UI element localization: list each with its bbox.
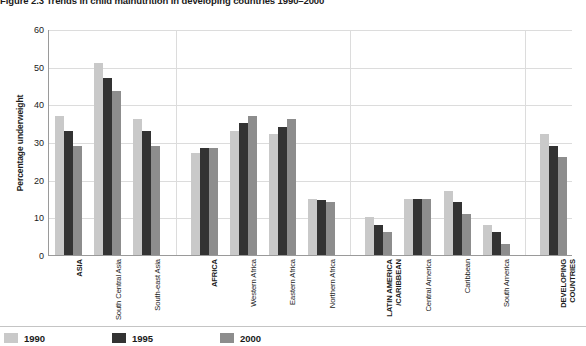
- bar: [404, 199, 413, 256]
- bar-group: [263, 30, 302, 255]
- legend-label: 1990: [24, 333, 45, 344]
- legend-swatch: [112, 333, 126, 343]
- bar: [483, 225, 492, 255]
- x-axis-category-label: Northern Africa: [328, 259, 356, 335]
- x-axis-category-label: ASIA: [75, 259, 103, 335]
- y-axis-tick-label: 50: [10, 63, 44, 73]
- bar: [239, 123, 248, 255]
- bar-group: [185, 30, 224, 255]
- chart-legend: 199019952000: [0, 326, 586, 342]
- bar: [383, 232, 392, 255]
- group-separator: [176, 30, 177, 255]
- legend-swatch: [4, 333, 18, 343]
- bar: [64, 131, 73, 255]
- bar: [55, 116, 64, 255]
- bar-group: [49, 30, 88, 255]
- bar: [200, 148, 209, 255]
- bar: [209, 148, 218, 255]
- bar: [365, 217, 374, 255]
- bar: [103, 78, 112, 255]
- bar: [501, 244, 510, 255]
- bar: [462, 214, 471, 255]
- bar-group: [224, 30, 263, 255]
- bar: [453, 202, 462, 255]
- bar: [374, 225, 383, 255]
- bar: [112, 91, 121, 255]
- figure-title: Figure 2.3 Trends in child malnutrition …: [0, 0, 586, 7]
- x-axis-category-label: Eastern Africa: [288, 259, 316, 335]
- bar-group: [359, 30, 398, 255]
- legend-item[interactable]: 1995: [112, 332, 153, 344]
- x-axis-category-label: South-east Asia: [153, 259, 181, 335]
- bar: [444, 191, 453, 255]
- x-axis-category-label: Caribbean: [463, 259, 491, 335]
- bar: [248, 116, 257, 255]
- x-axis-category-label: AFRICA: [210, 259, 238, 335]
- bar: [540, 134, 549, 255]
- plot-area: 0102030405060: [48, 30, 572, 256]
- x-axis-category-label: Central America: [424, 259, 452, 335]
- bar-group: [477, 30, 516, 255]
- bar: [94, 63, 103, 255]
- group-separator: [525, 30, 526, 255]
- bar: [151, 146, 160, 255]
- bar-group: [438, 30, 477, 255]
- y-axis-tick-label: 40: [10, 100, 44, 110]
- bar: [142, 131, 151, 255]
- bar-group: [127, 30, 166, 255]
- y-axis-tick-label: 0: [10, 251, 44, 261]
- bar: [492, 232, 501, 255]
- bar: [308, 199, 317, 256]
- bar: [422, 199, 431, 256]
- bar: [413, 199, 422, 256]
- bar: [317, 200, 326, 255]
- bar-group: [302, 30, 341, 255]
- y-axis-tick-label: 20: [10, 176, 44, 186]
- legend-swatch: [220, 333, 234, 343]
- bar: [133, 119, 142, 255]
- bar: [230, 131, 239, 255]
- y-axis-tick-label: 10: [10, 213, 44, 223]
- bar: [191, 153, 200, 255]
- bar: [269, 134, 278, 255]
- legend-item[interactable]: 1990: [4, 332, 45, 344]
- figure-title-text: Figure 2.3 Trends in child malnutrition …: [0, 0, 324, 6]
- y-axis-tick-label: 60: [10, 25, 44, 35]
- bar: [73, 146, 82, 255]
- legend-label: 2000: [240, 333, 261, 344]
- legend-item[interactable]: 2000: [220, 332, 261, 344]
- y-axis-tick-label: 30: [10, 138, 44, 148]
- bar-group: [398, 30, 437, 255]
- x-axis-category-label: LATIN AMERICA /CARIBBEAN: [385, 259, 413, 335]
- legend-label: 1995: [132, 333, 153, 344]
- bar-group: [534, 30, 573, 255]
- bar: [558, 157, 567, 255]
- x-axis-category-label: DEVELOPING COUNTRIES: [559, 259, 586, 335]
- x-axis-category-label: Western Africa: [249, 259, 277, 335]
- x-axis-category-label: South Central Asia: [114, 259, 142, 335]
- bar: [326, 202, 335, 255]
- bar: [287, 119, 296, 255]
- figure-container: Figure 2.3 Trends in child malnutrition …: [0, 0, 586, 346]
- group-separator: [350, 30, 351, 255]
- bar: [549, 146, 558, 255]
- bar: [278, 127, 287, 255]
- x-axis-category-label: South America: [502, 259, 530, 335]
- bar-group: [88, 30, 127, 255]
